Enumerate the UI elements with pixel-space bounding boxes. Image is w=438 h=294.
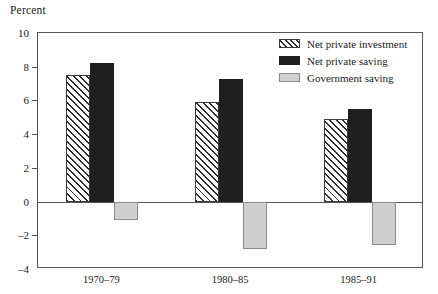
bar bbox=[90, 63, 114, 201]
bar bbox=[219, 79, 243, 202]
x-axis-category-label: 1980–85 bbox=[212, 274, 249, 286]
bar bbox=[372, 202, 396, 246]
bar bbox=[195, 102, 219, 201]
legend-item-label: Net private saving bbox=[307, 55, 388, 67]
y-axis-tick bbox=[32, 100, 38, 101]
y-axis-tick-label: 8 bbox=[24, 61, 30, 72]
x-axis-category-label: 1985–91 bbox=[340, 274, 377, 286]
bar bbox=[324, 119, 348, 202]
chart-legend: Net private investmentNet private saving… bbox=[279, 36, 421, 87]
legend-item: Net private investment bbox=[279, 36, 421, 51]
bar bbox=[66, 75, 90, 201]
y-axis-tick-label: 10 bbox=[18, 28, 29, 39]
legend-swatch-icon bbox=[279, 39, 300, 48]
y-axis-tick-label: 0 bbox=[24, 196, 30, 207]
y-axis-tick bbox=[32, 235, 38, 236]
legend-item-label: Net private investment bbox=[307, 38, 407, 50]
y-axis-tick-label: –4 bbox=[18, 264, 29, 275]
y-axis-tick-label: –2 bbox=[18, 230, 29, 241]
bar bbox=[348, 109, 372, 202]
legend-swatch-icon bbox=[279, 56, 300, 65]
y-axis-title: Percent bbox=[10, 3, 46, 17]
legend-item: Government saving bbox=[279, 70, 421, 85]
x-axis-category-label: 1970–79 bbox=[83, 274, 120, 286]
y-axis-tick-label: 6 bbox=[24, 95, 30, 106]
legend-swatch-icon bbox=[279, 73, 300, 82]
y-axis-tick bbox=[32, 67, 38, 68]
y-axis-tick-label: 2 bbox=[24, 162, 30, 173]
legend-item-label: Government saving bbox=[307, 72, 393, 84]
bar bbox=[243, 202, 267, 249]
y-axis-tick-label: 4 bbox=[24, 129, 30, 140]
y-axis-tick bbox=[32, 134, 38, 135]
zero-baseline bbox=[38, 202, 422, 203]
y-axis-tick bbox=[32, 168, 38, 169]
bar bbox=[114, 202, 138, 221]
legend-item: Net private saving bbox=[279, 53, 421, 68]
